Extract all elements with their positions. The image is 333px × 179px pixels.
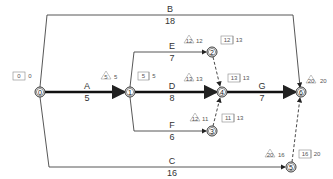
svg-text:0: 0 <box>17 73 21 79</box>
svg-text:20: 20 <box>314 151 321 157</box>
node-5-time-box: 16 20 <box>299 150 321 158</box>
svg-text:16: 16 <box>302 151 309 157</box>
activity-d-duration: 8 <box>169 93 174 103</box>
node-4-triangle-label: 13 13 <box>184 73 203 82</box>
dummy-2-4 <box>213 57 220 86</box>
svg-text:0: 0 <box>28 73 32 79</box>
svg-text:13: 13 <box>231 75 238 81</box>
node-1: 1 <box>125 87 135 97</box>
svg-text:5: 5 <box>104 74 108 80</box>
node-5-triangle-label: 20 16 <box>265 149 285 158</box>
activity-c-name: C <box>169 156 176 166</box>
node-2-triangle-label: 12 12 <box>184 35 203 44</box>
node-1-time-box: 5 5 <box>138 72 156 80</box>
svg-text:11: 11 <box>202 116 209 122</box>
svg-text:12: 12 <box>196 38 203 44</box>
svg-text:20: 20 <box>267 152 274 158</box>
node-3-time-box: 11 13 <box>222 114 244 122</box>
svg-text:20: 20 <box>308 78 315 84</box>
svg-text:0: 0 <box>38 89 42 96</box>
node-2-time-box: 12 13 <box>221 36 243 44</box>
svg-text:13: 13 <box>243 75 250 81</box>
activity-f-duration: 6 <box>169 132 174 142</box>
svg-text:13: 13 <box>237 115 244 121</box>
node-0-time-box: 0 0 <box>13 72 35 80</box>
node-0: 0 <box>35 87 45 97</box>
dummy-3-4 <box>213 98 220 126</box>
activity-b-duration: 18 <box>165 16 175 26</box>
activity-e-name: E <box>169 41 175 51</box>
activity-b-name: B <box>167 4 173 14</box>
svg-text:5: 5 <box>142 73 146 79</box>
svg-text:5: 5 <box>114 74 118 80</box>
svg-text:4: 4 <box>220 89 224 96</box>
svg-text:16: 16 <box>278 152 285 158</box>
svg-text:13: 13 <box>196 76 203 82</box>
svg-text:6: 6 <box>299 89 303 96</box>
svg-text:11: 11 <box>225 115 232 121</box>
svg-text:2: 2 <box>210 49 214 56</box>
node-3-triangle-label: 12 11 <box>190 113 209 122</box>
activity-a-duration: 5 <box>84 93 89 103</box>
node-3: 3 <box>207 126 217 136</box>
activity-c-duration: 16 <box>167 168 177 178</box>
svg-text:13: 13 <box>186 76 193 82</box>
node-6-triangle-label: 20 20 <box>306 75 327 84</box>
svg-text:12: 12 <box>224 37 231 43</box>
node-6: 6 <box>296 87 306 97</box>
activity-g-name: G <box>258 81 265 91</box>
node-2: 2 <box>207 47 217 57</box>
svg-text:12: 12 <box>192 116 199 122</box>
activity-a-name: A <box>84 81 90 91</box>
network-diagram: B 18 C 16 A 5 E 7 D 8 F 6 G 7 0 1 2 3 <box>0 0 333 179</box>
activity-e-duration: 7 <box>169 53 174 63</box>
svg-text:5: 5 <box>289 164 293 171</box>
node-1-triangle-label: 5 5 <box>101 71 118 80</box>
node-4-time-box: 13 13 <box>228 74 250 82</box>
activity-g-duration: 7 <box>259 93 264 103</box>
svg-text:1: 1 <box>128 89 132 96</box>
svg-text:12: 12 <box>186 38 193 44</box>
activity-c-arrow <box>40 97 285 167</box>
node-5: 5 <box>286 162 296 172</box>
svg-text:20: 20 <box>320 78 327 84</box>
svg-text:5: 5 <box>152 73 156 79</box>
svg-text:13: 13 <box>236 37 243 43</box>
activity-f-name: F <box>169 120 175 130</box>
node-4: 4 <box>217 87 227 97</box>
activity-d-name: D <box>169 81 176 91</box>
svg-text:3: 3 <box>210 128 214 135</box>
